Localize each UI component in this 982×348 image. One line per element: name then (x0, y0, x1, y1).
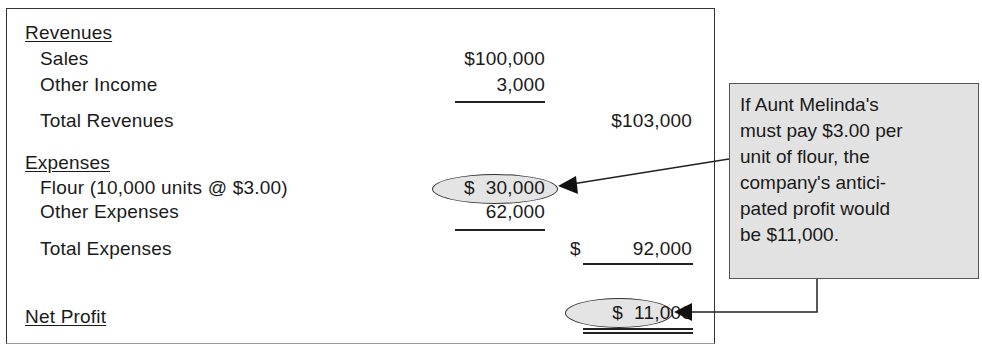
arrow-to-net-profit-icon (674, 279, 817, 321)
callout-connectors (0, 0, 982, 348)
arrow-to-flour-icon (558, 159, 729, 194)
